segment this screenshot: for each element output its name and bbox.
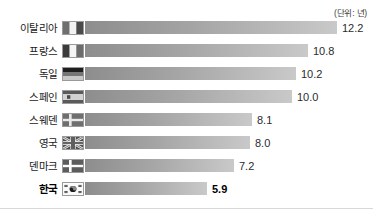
bar-row: 독일 10.2 (0, 62, 373, 85)
category-label: 독일 (0, 66, 62, 81)
bar-value-label: 7.2 (239, 160, 254, 172)
south-korea-flag-icon (62, 182, 84, 196)
germany-flag-icon (62, 67, 84, 81)
bar-track: 8.1 (85, 113, 373, 126)
bar-fill (85, 182, 207, 195)
bar-value-label: 10.0 (297, 91, 318, 103)
bar-row: 스페인 10.0 (0, 85, 373, 108)
bar-track: 10.8 (85, 44, 373, 57)
bar-value-label: 10.8 (313, 45, 334, 57)
bar-value-label: 8.0 (255, 137, 270, 149)
france-flag-icon (62, 44, 84, 58)
category-label: 덴마크 (0, 158, 62, 173)
sweden-flag-icon (62, 113, 84, 127)
uk-flag-icon (62, 136, 84, 150)
bar-row: 덴마크 7.2 (0, 154, 373, 177)
bar-fill (85, 21, 337, 34)
bar-row: 한국 5.9 (0, 177, 373, 200)
bar-track: 5.9 (85, 182, 373, 195)
bar-value-label: 10.2 (301, 68, 322, 80)
bar-fill (85, 113, 252, 126)
bar-chart: (단위: 년) 이탈리아 12.2 프랑스 (0, 0, 373, 214)
bar-row: 영국 8.0 (0, 131, 373, 154)
bar-fill (85, 67, 296, 80)
bar-track: 12.2 (85, 21, 373, 34)
bar-value-label: 12.2 (342, 22, 363, 34)
denmark-flag-icon (62, 159, 84, 173)
baseline-rule (0, 208, 373, 209)
bar-value-label: 5.9 (212, 183, 227, 195)
bar-track: 8.0 (85, 136, 373, 149)
category-label: 한국 (0, 181, 62, 196)
category-label: 이탈리아 (0, 20, 62, 35)
bar-track: 10.2 (85, 67, 373, 80)
bar-value-label: 8.1 (257, 114, 272, 126)
category-label: 영국 (0, 135, 62, 150)
bar-fill (85, 159, 234, 172)
spain-flag-icon (62, 90, 84, 104)
bar-fill (85, 44, 308, 57)
bar-rows: 이탈리아 12.2 프랑스 (0, 16, 373, 200)
bar-row: 스웨덴 8.1 (0, 108, 373, 131)
bar-track: 7.2 (85, 159, 373, 172)
category-label: 스웨덴 (0, 112, 62, 127)
bar-row: 프랑스 10.8 (0, 39, 373, 62)
bar-track: 10.0 (85, 90, 373, 103)
bar-fill (85, 90, 292, 103)
bar-fill (85, 136, 250, 149)
bar-row: 이탈리아 12.2 (0, 16, 373, 39)
category-label: 스페인 (0, 89, 62, 104)
category-label: 프랑스 (0, 43, 62, 58)
italy-flag-icon (62, 21, 84, 35)
